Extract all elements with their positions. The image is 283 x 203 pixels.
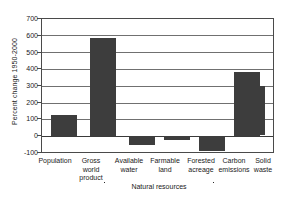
bar-gross-world-product (90, 38, 116, 136)
y-tick-label: -100 (10, 149, 38, 156)
x-label-line: waste (244, 166, 282, 175)
x-category-solid-waste: Solid waste (244, 157, 282, 174)
bar-available-water (129, 136, 155, 145)
y-tick-label: 400 (10, 65, 38, 72)
bar-forested-acreage (199, 136, 225, 151)
bar-population (51, 115, 77, 136)
bracket-label-wrap: Natural resources (104, 183, 214, 191)
y-tick-label: 500 (10, 49, 38, 56)
y-tick-label: 600 (10, 32, 38, 39)
x-label-line: Solid (244, 157, 282, 166)
bracket-label: Natural resources (128, 183, 189, 190)
natural-resources-bracket: Natural resources (104, 182, 214, 190)
bar-farmable-land (164, 136, 190, 140)
y-tick-label: 300 (10, 82, 38, 89)
bar-chart-figure: Percent change 1950-2000 700 600 500 400… (0, 0, 283, 203)
gridline (42, 52, 273, 53)
zero-baseline (42, 136, 273, 137)
y-tick-label: 700 (10, 15, 38, 22)
gridline (42, 35, 273, 36)
y-tick-label: 200 (10, 99, 38, 106)
gridline (42, 69, 273, 70)
bar-solid-waste-visible (239, 86, 265, 135)
y-tick-label: 0 (10, 132, 38, 139)
y-tick-label: 100 (10, 115, 38, 122)
